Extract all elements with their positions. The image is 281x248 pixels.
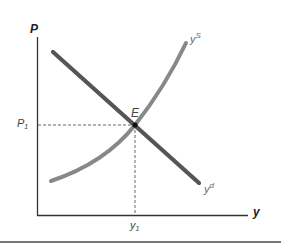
x-axis-label: y xyxy=(253,206,260,218)
quantity-y1-sub: 1 xyxy=(136,225,140,232)
supply-demand-diagram xyxy=(0,0,281,248)
bottom-rule-divider xyxy=(0,241,281,243)
equilibrium-label: E xyxy=(131,107,139,119)
demand-line xyxy=(53,52,199,183)
quantity-y1-label: y1 xyxy=(130,220,139,232)
price-p1-sub: 1 xyxy=(24,123,28,130)
y-axis-label: P xyxy=(30,23,38,35)
equilibrium-point xyxy=(132,122,137,127)
demand-line-label: yd xyxy=(204,182,214,195)
price-p1-label: P1 xyxy=(17,118,28,130)
supply-label-sup: S xyxy=(196,31,201,40)
demand-label-sup: d xyxy=(210,181,214,190)
supply-curve-label: yS xyxy=(190,32,201,45)
